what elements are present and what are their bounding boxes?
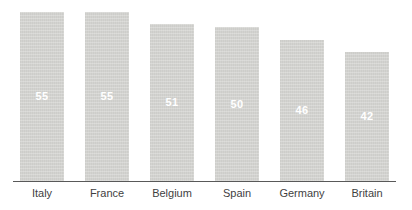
bar-value-label-italy: 55 [35, 91, 48, 102]
x-axis-label-spain: Spain [215, 187, 259, 200]
bar-chart: 555551504642 ItalyFranceBelgiumSpainGerm… [0, 0, 412, 210]
bar-value-label-britain: 42 [360, 111, 373, 122]
bar-belgium: 51 [150, 24, 194, 181]
x-axis-label-france: France [85, 187, 129, 200]
x-axis-label-belgium: Belgium [150, 187, 194, 200]
bar-value-label-france: 55 [100, 91, 113, 102]
x-axis-line [13, 181, 396, 182]
bar-germany: 46 [280, 40, 324, 181]
x-axis-labels: ItalyFranceBelgiumSpainGermanyBritain [20, 187, 389, 200]
bar-britain: 42 [345, 52, 389, 181]
bar-value-label-spain: 50 [230, 99, 243, 110]
bar-italy: 55 [20, 12, 64, 181]
x-axis-label-italy: Italy [20, 187, 64, 200]
bar-france: 55 [85, 12, 129, 181]
bar-value-label-belgium: 51 [165, 97, 178, 108]
x-axis-label-germany: Germany [280, 187, 324, 200]
bar-value-label-germany: 46 [295, 105, 308, 116]
bar-spain: 50 [215, 27, 259, 181]
plot-area: 555551504642 [20, 6, 389, 181]
x-axis-label-britain: Britain [345, 187, 389, 200]
